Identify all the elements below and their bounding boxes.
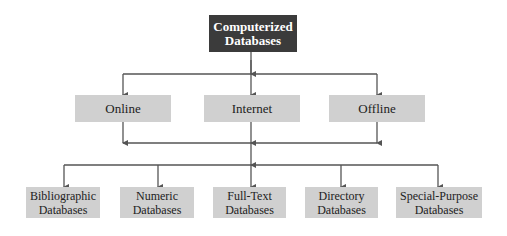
node-offline: Offline — [329, 95, 425, 122]
node-line2: Databases — [133, 203, 182, 217]
root-node-computerized-databases: Computerized Databases — [209, 15, 297, 52]
node-full-text-databases: Full-Text Databases — [213, 187, 286, 218]
node-label: Offline — [358, 102, 395, 116]
node-numeric-databases: Numeric Databases — [120, 187, 194, 218]
node-line2: Databases — [317, 203, 366, 217]
node-bibliographic-databases: Bibliographic Databases — [26, 187, 100, 218]
node-line1: Bibliographic — [30, 189, 96, 203]
node-line1: Special-Purpose — [400, 189, 478, 203]
node-line1: Full-Text — [227, 189, 272, 203]
node-special-purpose-databases: Special-Purpose Databases — [396, 187, 482, 218]
node-line2: Databases — [225, 203, 274, 217]
node-line1: Directory — [319, 189, 365, 203]
node-online: Online — [75, 95, 171, 122]
root-node-line2: Databases — [225, 34, 281, 48]
node-directory-databases: Directory Databases — [305, 187, 378, 218]
node-line2: Databases — [39, 203, 88, 217]
node-line2: Databases — [415, 203, 464, 217]
root-node-line1: Computerized — [213, 20, 292, 34]
node-line1: Numeric — [136, 189, 178, 203]
node-label: Internet — [232, 102, 272, 116]
node-label: Online — [105, 102, 140, 116]
node-internet: Internet — [204, 95, 300, 122]
